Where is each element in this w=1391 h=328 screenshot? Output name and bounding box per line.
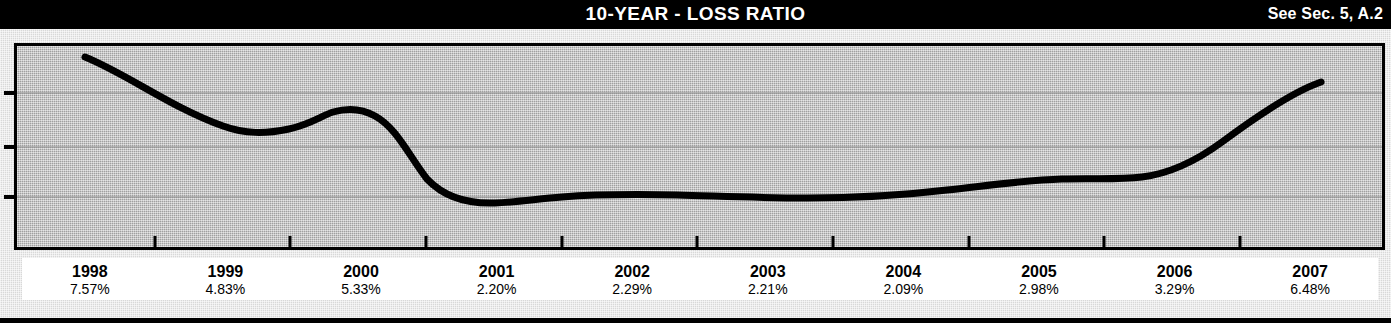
loss-ratio-chart-page: 10-YEAR - LOSS RATIO See Sec. 5, A.2 (0, 0, 1391, 328)
label-cell-2007: 2007 6.48% (1242, 258, 1378, 300)
value-label: 2.21% (700, 281, 836, 298)
line-chart-svg (17, 46, 1382, 247)
footer-white-margin (0, 323, 1391, 328)
label-cell-2000: 2000 5.33% (293, 258, 429, 300)
loss-ratio-line (85, 57, 1321, 203)
year-value-label-strip: 1998 7.57% 1999 4.83% 2000 5.33% 2001 2.… (22, 258, 1378, 300)
value-label: 2.09% (836, 281, 972, 298)
label-cell-2003: 2003 2.21% (700, 258, 836, 300)
value-label: 2.20% (429, 281, 565, 298)
value-label: 5.33% (293, 281, 429, 298)
year-label: 2002 (564, 262, 700, 281)
label-cell-2006: 2006 3.29% (1107, 258, 1243, 300)
year-label: 1998 (22, 262, 158, 281)
value-label: 4.83% (158, 281, 294, 298)
value-label: 6.48% (1242, 281, 1378, 298)
plot-area (14, 43, 1385, 250)
header-bar: 10-YEAR - LOSS RATIO See Sec. 5, A.2 (0, 0, 1391, 29)
year-label: 2006 (1107, 262, 1243, 281)
year-label: 2005 (971, 262, 1107, 281)
x-axis-ticks (155, 236, 1240, 247)
year-label: 2000 (293, 262, 429, 281)
gridlines (17, 93, 1382, 197)
year-label: 2001 (429, 262, 565, 281)
year-label: 1999 (158, 262, 294, 281)
label-cell-2001: 2001 2.20% (429, 258, 565, 300)
year-label: 2007 (1242, 262, 1378, 281)
label-cell-2004: 2004 2.09% (836, 258, 972, 300)
value-label: 2.98% (971, 281, 1107, 298)
section-reference-note: See Sec. 5, A.2 (1268, 5, 1383, 23)
label-cell-2005: 2005 2.98% (971, 258, 1107, 300)
value-label: 3.29% (1107, 281, 1243, 298)
value-label: 2.29% (564, 281, 700, 298)
page-title: 10-YEAR - LOSS RATIO (0, 3, 1391, 25)
label-cell-1998: 1998 7.57% (22, 258, 158, 300)
label-cell-2002: 2002 2.29% (564, 258, 700, 300)
year-label: 2003 (700, 262, 836, 281)
label-cell-1999: 1999 4.83% (158, 258, 294, 300)
value-label: 7.57% (22, 281, 158, 298)
year-label: 2004 (836, 262, 972, 281)
